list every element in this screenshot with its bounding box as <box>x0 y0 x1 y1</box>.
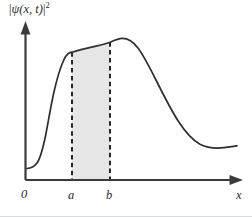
origin-label: 0 <box>21 188 27 201</box>
y-axis-arrowhead <box>21 21 31 35</box>
probability-density-curve <box>27 38 237 168</box>
x-axis-arrowhead <box>230 175 244 185</box>
upper-bound-label: b <box>106 189 112 202</box>
plot-canvas <box>0 0 252 217</box>
shaded-probability-region <box>72 42 110 180</box>
lower-bound-label: a <box>68 189 74 202</box>
x-axis-label: x <box>236 189 242 202</box>
probability-density-figure: |ψ(x, t)|2 0 a b x <box>0 0 252 217</box>
